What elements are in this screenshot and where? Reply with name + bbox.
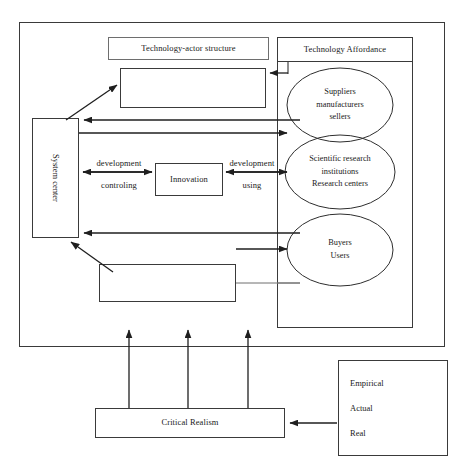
suppliers-line-1: Suppliers	[324, 86, 355, 99]
research-line-1: Scientific research	[309, 153, 371, 165]
page-bleed-through-artifact	[120, 0, 125, 18]
stratum-empirical: Empirical	[350, 378, 448, 388]
innovation-label: Innovation	[155, 163, 223, 196]
suppliers-line-3: sellers	[329, 111, 350, 124]
lower-structure-label	[99, 264, 236, 302]
technology-affordance-label: Technology Affordance	[277, 37, 413, 62]
critical-realism-label: Critical Realism	[95, 408, 285, 438]
critical-realism-strata-list: Empirical Actual Real	[338, 360, 448, 456]
system-center-label: System center	[51, 154, 61, 202]
affordance-group-suppliers-label: Suppliers manufacturers sellers	[288, 83, 392, 127]
affordance-group-buyers-label: Buyers Users	[292, 234, 388, 266]
stratum-actual: Actual	[350, 403, 448, 413]
suppliers-line-2: manufacturers	[316, 99, 363, 112]
edge-label-development-left: development	[86, 157, 152, 171]
system-center-vertical-text-wrapper: System center	[33, 119, 78, 237]
affordance-group-research-label: Scientific research institutions Researc…	[282, 150, 398, 194]
edge-label-development-right: development	[222, 157, 282, 171]
buyers-line-1: Buyers	[328, 237, 352, 250]
diagram-canvas: Technology-actor structure Technology Af…	[0, 0, 465, 470]
stratum-real: Real	[350, 428, 448, 438]
research-line-2: institutions	[322, 166, 359, 178]
research-line-3: Research centers	[312, 178, 368, 190]
system-center-box: System center	[32, 118, 79, 238]
buyers-line-2: Users	[331, 250, 350, 263]
edge-label-controling: controling	[86, 179, 152, 193]
edge-label-using: using	[222, 179, 282, 193]
technology-actor-structure-label: Technology-actor structure	[108, 37, 269, 60]
technology-actor-structure-body-label	[120, 68, 266, 108]
